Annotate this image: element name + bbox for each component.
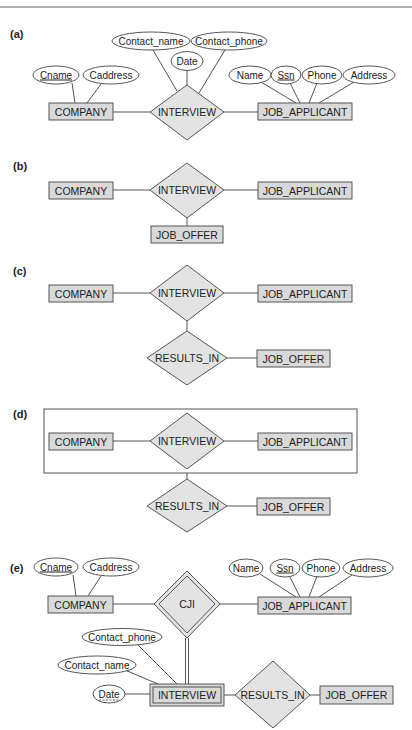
svg-text:Contact_name: Contact_name [118, 36, 183, 47]
svg-text:COMPANY: COMPANY [55, 106, 107, 118]
relationship-results-in: RESULTS_IN [235, 661, 310, 728]
panel-e: (e) Cname Caddress Name Ssn [10, 558, 393, 728]
entity-company: COMPANY [49, 103, 113, 120]
svg-text:INTERVIEW: INTERVIEW [158, 435, 216, 447]
svg-text:RESULTS_IN: RESULTS_IN [155, 500, 219, 512]
svg-text:JOB_APPLICANT: JOB_APPLICANT [262, 600, 347, 612]
svg-text:INTERVIEW: INTERVIEW [158, 184, 216, 196]
svg-text:Date: Date [98, 689, 120, 700]
attr-cname: Cname [33, 66, 79, 84]
svg-text:RESULTS_IN: RESULTS_IN [241, 689, 305, 701]
entity-job-offer: JOB_OFFER [151, 226, 223, 243]
svg-text:COMPANY: COMPANY [55, 185, 107, 197]
entity-job-offer: JOB_OFFER [257, 350, 330, 367]
panel-b: (b) COMPANY INTERVIEW JOB_APPLICANT JOB_… [13, 160, 352, 243]
svg-text:INTERVIEW: INTERVIEW [158, 287, 216, 299]
entity-company: COMPANY [48, 596, 113, 613]
svg-text:COMPANY: COMPANY [55, 436, 107, 448]
svg-text:JOB_APPLICANT: JOB_APPLICANT [263, 436, 348, 448]
relationship-interview: INTERVIEW [150, 163, 224, 218]
svg-text:JOB_APPLICANT: JOB_APPLICANT [263, 288, 348, 300]
panel-label-a: (a) [10, 28, 24, 40]
attr-contact-name: Contact_name [58, 656, 136, 674]
attr-name: Name [229, 66, 271, 84]
attr-date-partial-key: Date [93, 685, 125, 703]
panel-label-c: (c) [13, 265, 27, 277]
svg-text:JOB_APPLICANT: JOB_APPLICANT [263, 185, 348, 197]
entity-job-applicant: JOB_APPLICANT [258, 285, 352, 302]
panel-label-e: (e) [10, 562, 24, 574]
relationship-interview: INTERVIEW [150, 265, 224, 321]
weak-entity-interview: INTERVIEW [150, 684, 224, 706]
svg-text:JOB_APPLICANT: JOB_APPLICANT [263, 106, 348, 118]
attr-contact-name: Contact_name [112, 32, 190, 50]
entity-job-applicant: JOB_APPLICANT [258, 433, 352, 450]
svg-text:Phone: Phone [308, 70, 337, 81]
attr-caddress: Caddress [83, 66, 139, 84]
attr-contact-phone: Contact_phone [191, 32, 267, 50]
relationship-results-in: RESULTS_IN [147, 479, 227, 532]
svg-text:Contact_name: Contact_name [64, 660, 129, 671]
entity-job-offer: JOB_OFFER [320, 686, 393, 704]
svg-text:Ssn: Ssn [276, 563, 293, 574]
svg-text:Date: Date [176, 56, 198, 67]
svg-text:Address: Address [350, 563, 387, 574]
relationship-results-in: RESULTS_IN [147, 331, 227, 385]
entity-job-applicant: JOB_APPLICANT [258, 597, 351, 614]
svg-text:Address: Address [351, 70, 388, 81]
svg-text:CJI: CJI [179, 598, 195, 610]
svg-text:Phone: Phone [307, 563, 336, 574]
attr-cname: Cname [34, 558, 78, 576]
attr-date: Date [171, 52, 203, 71]
attr-address: Address [343, 66, 395, 84]
svg-text:RESULTS_IN: RESULTS_IN [155, 352, 219, 364]
relationship-interview: INTERVIEW [150, 85, 224, 140]
attr-name: Name [229, 559, 263, 577]
panel-d: (d) COMPANY INTERVIEW JOB_APPLICANT RESU… [13, 408, 357, 532]
panel-a: (a) Cname Caddress Contact_name Contact_… [10, 28, 395, 140]
entity-job-offer: JOB_OFFER [257, 498, 330, 515]
attr-caddress: Caddress [83, 558, 139, 576]
svg-text:JOB_OFFER: JOB_OFFER [326, 689, 388, 701]
er-diagram-figure: (a) Cname Caddress Contact_name Contact_… [0, 0, 412, 730]
svg-text:JOB_OFFER: JOB_OFFER [263, 353, 325, 365]
attr-phone: Phone [302, 559, 340, 577]
entity-job-applicant: JOB_APPLICANT [258, 103, 352, 120]
svg-text:COMPANY: COMPANY [55, 288, 107, 300]
svg-text:JOB_OFFER: JOB_OFFER [156, 229, 218, 241]
svg-text:Cname: Cname [40, 70, 73, 81]
attr-ssn: Ssn [271, 66, 301, 84]
svg-text:Caddress: Caddress [90, 70, 133, 81]
entity-company: COMPANY [49, 182, 113, 199]
svg-text:Name: Name [237, 70, 264, 81]
svg-text:Contact_phone: Contact_phone [88, 632, 156, 643]
svg-text:COMPANY: COMPANY [54, 599, 106, 611]
svg-text:INTERVIEW: INTERVIEW [158, 689, 216, 701]
attr-phone: Phone [302, 66, 342, 84]
panel-c: (c) COMPANY INTERVIEW JOB_APPLICANT RESU… [13, 265, 352, 385]
svg-text:INTERVIEW: INTERVIEW [158, 106, 216, 118]
svg-text:JOB_OFFER: JOB_OFFER [263, 501, 325, 513]
svg-text:Contact_phone: Contact_phone [195, 36, 263, 47]
svg-text:Ssn: Ssn [277, 70, 294, 81]
panel-label-b: (b) [13, 160, 27, 172]
identifying-relationship-cji: CJI [154, 571, 220, 638]
attr-contact-phone: Contact_phone [82, 629, 162, 646]
attr-address: Address [343, 559, 393, 577]
entity-company: COMPANY [49, 285, 113, 302]
relationship-interview: INTERVIEW [150, 413, 224, 469]
entity-company: COMPANY [49, 433, 113, 450]
entity-job-applicant: JOB_APPLICANT [258, 182, 352, 199]
svg-text:Name: Name [233, 563, 260, 574]
svg-text:Cname: Cname [40, 562, 73, 573]
svg-text:Caddress: Caddress [90, 562, 133, 573]
panel-label-d: (d) [13, 408, 27, 420]
attr-ssn: Ssn [270, 559, 300, 577]
